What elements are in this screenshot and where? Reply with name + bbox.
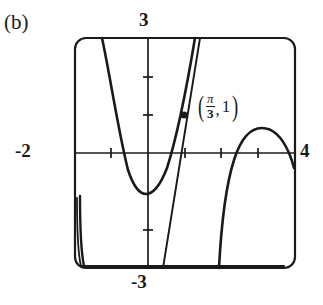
close-paren: ) [232,93,238,119]
curve-right-branch [219,128,294,268]
label-y-value: 1 [222,98,231,115]
tangent-point-marker [180,111,187,118]
fraction-numerator: π [206,92,215,105]
figure-panel: (b) 3 -2 4 -3 [0,0,323,305]
fraction-denominator: 3 [206,107,215,120]
tangent-point-label: ( π 3 , 1 ) [196,92,240,120]
curve-left-asymptote-branch [80,196,84,266]
plot-area [0,0,323,305]
label-comma: , [216,101,220,118]
open-paren: ( [198,93,204,119]
pi-over-three-fraction: π 3 [206,92,215,120]
